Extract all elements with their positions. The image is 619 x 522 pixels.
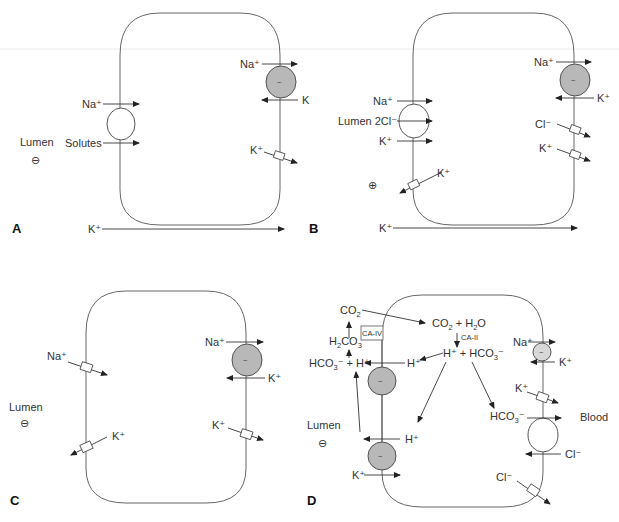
panel-d-k-channel-label: K⁺ [515, 382, 528, 394]
panel-d-pump-na-label: Na⁺ [513, 336, 533, 348]
panel-d-k-channel [536, 392, 549, 403]
panel-c-enac-channel [80, 362, 93, 373]
panel-c-k-channel [240, 429, 253, 440]
panel-c-k-channel-label: K⁺ [212, 419, 225, 431]
panel-c-pump-tilde-icon: ~ [243, 356, 248, 365]
panel-d-negative-charge-icon: ⊖ [318, 437, 327, 449]
panel-a: Na⁺ Solutes Lumen ⊖ ~ Na⁺ K K⁺ K⁺ A [12, 13, 310, 236]
panel-b-cl-channel-label: Cl⁻ [535, 118, 551, 130]
panel-d-apical-h-label-1: H⁺ [407, 357, 421, 369]
panel-d-cl-channel [527, 484, 541, 497]
panel-c-negative-charge-icon: ⊖ [20, 417, 29, 429]
panel-a-pump-k-label: K [302, 94, 310, 106]
panel-c-cell-membrane [86, 291, 246, 503]
panel-a-solutes-label: Solutes [65, 137, 102, 149]
panel-d-h-k-atpase-tilde-icon: ~ [378, 452, 383, 461]
panel-d-luminal-h2co3: H2CO3 [329, 335, 362, 350]
panel-b: Na⁺ Lumen 2Cl⁻ K⁺ K⁺ ⊕ ~ Na⁺ K⁺ Cl⁻ K⁺ K… [309, 13, 610, 236]
panel-d-h-to-pump-arrow [420, 353, 443, 360]
panel-d-intracellular-co2-h2o: CO2 + H2O [432, 317, 486, 332]
panel-d-cl-entry-label: Cl⁻ [565, 448, 581, 460]
panel-b-k-channel-label: K⁺ [539, 142, 552, 154]
panel-d-h-down-arrow [418, 362, 446, 422]
panel-a-letter: A [12, 221, 22, 236]
panel-d: CO2 H2CO3 CA-IV HCO3⁻ + H⁺ CO2 + H2O CA-… [307, 295, 608, 508]
panel-d-blood-label: Blood [580, 411, 608, 423]
panel-b-cl-channel [569, 125, 581, 135]
panel-d-na-k-tilde-icon: ~ [539, 348, 544, 357]
panel-c-lumen-label: Lumen [9, 401, 43, 413]
panel-a-negative-charge-icon: ⊖ [31, 154, 40, 166]
panel-d-ca-iv-label: CA-IV [362, 329, 382, 338]
panel-d-pump-k-label: K⁺ [559, 356, 572, 368]
panel-c: Na⁺ K⁺ Lumen ⊖ ~ Na⁺ K⁺ K⁺ C [9, 291, 281, 508]
panel-b-positive-charge-icon: ⊕ [368, 179, 377, 191]
panel-c-enac-label: Na⁺ [47, 350, 67, 362]
panel-b-na-label: Na⁺ [373, 95, 393, 107]
panel-a-cell-membrane [120, 13, 280, 225]
panel-a-paracellular-label: K⁺ [88, 223, 101, 235]
panel-d-intracellular-h-hco3: H⁺ + HCO3⁻ [443, 347, 504, 362]
renal-tubule-transport-figure: Na⁺ Solutes Lumen ⊖ ~ Na⁺ K K⁺ K⁺ A Na⁺ … [0, 0, 619, 522]
panel-d-lumen-label: Lumen [307, 419, 341, 431]
panel-d-co2-diffusion-arrow [362, 310, 425, 323]
panel-b-k-label: K⁺ [379, 135, 392, 147]
panel-d-hco3-exit-label: HCO3⁻ [490, 410, 525, 425]
panel-b-pump-k-label: K⁺ [597, 92, 610, 104]
panel-d-h-atpase-tilde-icon: ~ [378, 377, 383, 386]
panel-c-romk-label: K⁺ [112, 430, 125, 442]
panel-c-pump-na-label: Na⁺ [205, 336, 225, 348]
panel-d-ca-ii-label: CA-II [461, 333, 478, 342]
panel-b-pump-tilde-icon: ~ [571, 76, 576, 85]
panel-d-apical-h-label-2: H⁺ [405, 433, 419, 445]
panel-d-apical-k-label: K⁺ [352, 469, 365, 481]
panel-a-pump-tilde-icon: ~ [277, 78, 282, 87]
panel-d-h-luminal-up-arrow [356, 372, 360, 432]
panel-d-luminal-hco3-h: HCO3⁻ + H⁺ [309, 357, 370, 372]
panel-d-hco3-down-arrow [472, 362, 494, 408]
panel-b-paracellular-label: K⁺ [379, 222, 392, 234]
panel-a-k-channel [273, 151, 285, 161]
panel-a-k-channel-label: K⁺ [250, 144, 263, 156]
panel-b-pump-na-label: Na⁺ [534, 56, 554, 68]
panel-c-letter: C [10, 493, 20, 508]
panel-d-cl-channel-label: Cl⁻ [496, 471, 512, 483]
panel-b-k-channel [569, 150, 581, 160]
diagram-canvas: Na⁺ Solutes Lumen ⊖ ~ Na⁺ K K⁺ K⁺ A Na⁺ … [0, 0, 619, 522]
panel-d-luminal-co2: CO2 [340, 304, 361, 319]
panel-b-cl-label: Lumen 2Cl⁻ [338, 115, 397, 127]
panel-b-romk-arrow [400, 172, 442, 193]
panel-a-pump-na-label: Na⁺ [240, 58, 260, 70]
panel-a-na-label: Na⁺ [82, 98, 102, 110]
panel-d-cl-hco3-exchanger [528, 418, 558, 452]
panel-a-cotransporter [107, 108, 135, 140]
panel-b-romk-label: K⁺ [437, 167, 450, 179]
panel-c-pump-k-label: K⁺ [268, 372, 281, 384]
panel-c-romk-channel [80, 441, 93, 453]
panel-d-letter: D [307, 493, 316, 508]
panel-a-lumen-label: Lumen [20, 136, 54, 148]
panel-b-letter: B [309, 221, 318, 236]
